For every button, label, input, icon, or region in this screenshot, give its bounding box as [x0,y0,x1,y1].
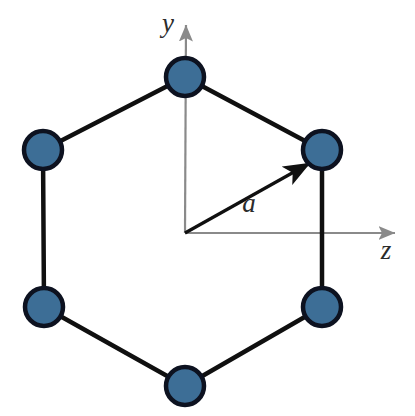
lattice-bonds [43,77,322,386]
hexagonal-lattice-figure: yza [0,0,415,416]
y-axis-label: y [159,8,174,38]
coordinate-axes [185,25,395,233]
lattice-atoms [24,58,341,405]
bond-top-left-to-top [43,77,185,150]
bond-bottom-left-to-top-left [43,150,44,307]
bond-bottom-to-bottom-left [44,307,185,386]
atom-top [166,58,204,96]
atom-top-left [24,131,62,169]
figure-canvas: yza [0,0,415,416]
atom-top-right [303,131,341,169]
atom-bottom [166,367,204,405]
bond-top-to-top-right [185,77,322,150]
atom-bottom-left [25,288,63,326]
z-axis-label: z [380,235,392,265]
bond-bottom-right-to-bottom [185,307,322,386]
vector-a-label: a [242,188,256,218]
atom-bottom-right [303,288,341,326]
